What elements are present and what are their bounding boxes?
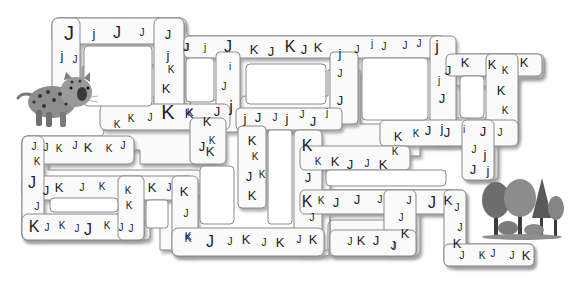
- maze-letter: J: [214, 105, 221, 118]
- maze-letter: J: [337, 94, 344, 107]
- maze-letter: j: [371, 39, 373, 49]
- maze-letter: K: [285, 39, 296, 55]
- maze-letter: J: [365, 159, 370, 169]
- maze-letter: K: [125, 186, 132, 196]
- maze-letter: J: [255, 111, 262, 124]
- maze-letter: K: [206, 145, 215, 158]
- maze-letter: J: [129, 224, 134, 234]
- maze-letter: J: [246, 170, 253, 183]
- maze-letter: J: [445, 64, 452, 77]
- maze-letter: J: [64, 23, 74, 43]
- maze-letter: K: [203, 115, 212, 128]
- maze-letter: J: [165, 28, 172, 41]
- maze-letter: J: [472, 145, 477, 155]
- maze-letter: K: [392, 147, 399, 157]
- maze-letter: K: [161, 102, 174, 122]
- maze-letter: K: [302, 138, 313, 154]
- maze-letter: j: [435, 39, 439, 55]
- maze-letter: J: [399, 213, 404, 223]
- maze-letter: J: [439, 92, 446, 105]
- maze-letter: J: [455, 203, 460, 213]
- maze-letter: J: [338, 69, 343, 79]
- maze-letter: j: [204, 43, 206, 53]
- maze-letter: J: [355, 45, 360, 55]
- maze-letter: J: [140, 28, 145, 38]
- maze-letter: J: [378, 195, 383, 205]
- maze-letter: K: [168, 65, 175, 75]
- maze-letter: K: [394, 130, 403, 143]
- maze-letter: J: [80, 183, 85, 193]
- maze-letter: J: [121, 141, 126, 151]
- maze-letter: K: [276, 236, 285, 249]
- maze-letter: j: [286, 112, 289, 125]
- maze-letter: J: [228, 237, 233, 247]
- maze-letter: K: [309, 233, 318, 246]
- maze-letter: J: [268, 45, 275, 58]
- maze-letter: K: [104, 221, 111, 231]
- maze-letter: K: [318, 196, 325, 206]
- maze-letter: K: [502, 66, 509, 76]
- maze-letter: j: [326, 108, 328, 118]
- maze-letter: J: [262, 238, 267, 248]
- maze-letter: J: [206, 234, 214, 250]
- maze-letter: J: [403, 41, 408, 51]
- maze-letter: J: [491, 249, 496, 259]
- maze-letter: K: [162, 82, 171, 95]
- maze-letter: J: [224, 39, 232, 55]
- maze-letter: j: [487, 164, 490, 177]
- maze-letter: J: [310, 213, 315, 223]
- maze-letter: K: [114, 120, 121, 130]
- maze-letter: J: [510, 251, 515, 261]
- maze-letter: J: [470, 163, 477, 176]
- maze-letter: j: [484, 148, 487, 161]
- maze-letter: K: [413, 129, 420, 139]
- maze-letter: K: [106, 144, 113, 154]
- maze-letter: K: [502, 106, 509, 116]
- maze-letter: J: [167, 183, 172, 193]
- maze-letter: K: [357, 234, 366, 247]
- maze-letter: K: [55, 181, 64, 194]
- maze-letter: K: [99, 182, 106, 192]
- maze-letter: K: [520, 56, 529, 69]
- maze-letter: J: [382, 42, 387, 52]
- maze-letter: J: [348, 237, 353, 247]
- maze-letter: j: [61, 49, 64, 62]
- maze-letter: j: [244, 112, 247, 125]
- maze-letter: J: [301, 43, 308, 56]
- maze-letter: J: [347, 158, 354, 171]
- maze-letter: K: [59, 221, 66, 231]
- maze-letter: J: [32, 142, 37, 152]
- maze-letter: K: [148, 181, 157, 194]
- maze-letter: K: [401, 227, 410, 240]
- maze-letter: K: [250, 43, 259, 56]
- maze-letter: J: [417, 39, 422, 49]
- maze-letter: K: [56, 144, 63, 154]
- maze-letter: J: [185, 43, 190, 53]
- maze-letter: K: [248, 134, 257, 147]
- maze-letter: J: [44, 143, 49, 153]
- maze-letter: K: [479, 251, 486, 261]
- maze-letter: K: [84, 141, 93, 154]
- maze-letter: i: [463, 125, 465, 135]
- maze-letter: J: [199, 140, 206, 153]
- maze-letter: J: [184, 209, 189, 219]
- maze-letter: J: [354, 193, 361, 206]
- maze-letter: j: [339, 47, 342, 60]
- maze-letter: J: [300, 110, 305, 120]
- maze-letter: K: [128, 114, 135, 124]
- maze-letter: K: [248, 189, 257, 202]
- maze-letter: j: [229, 99, 233, 115]
- maze-letter: K: [488, 58, 497, 71]
- maze-letter: J: [373, 234, 380, 247]
- maze-letter: K: [522, 249, 531, 262]
- maze-letter: J: [73, 55, 78, 65]
- maze-letter: J: [273, 113, 278, 123]
- jaguar-start-illustration: [14, 68, 100, 130]
- maze-letter: K: [453, 237, 462, 250]
- maze-letter: K: [314, 41, 323, 54]
- maze-letter: J: [391, 241, 396, 251]
- maze-letter: i: [229, 62, 231, 72]
- maze-letter: K: [259, 170, 266, 180]
- maze-letter: K: [185, 107, 194, 120]
- maze-letter: J: [444, 126, 451, 139]
